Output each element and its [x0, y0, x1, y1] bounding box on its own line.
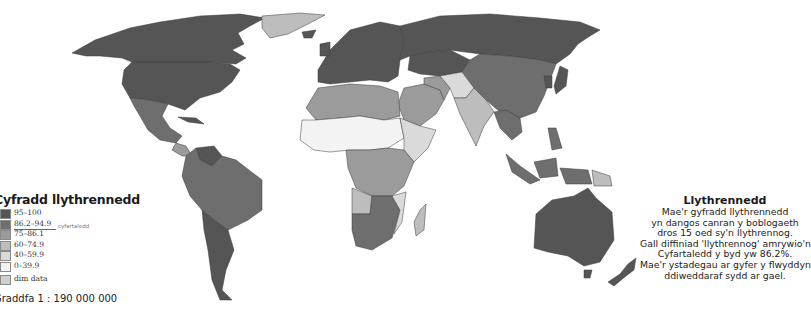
average-marker-label: cyfartaledd: [58, 223, 89, 229]
info-note: Llythrennedd Mae'r gyfradd llythrennedd …: [640, 195, 810, 281]
region-central-africa: [346, 148, 414, 196]
legend-label: 86.2–94.9: [14, 219, 51, 228]
legend-swatch: [0, 220, 11, 230]
region-sahel-west-africa: [300, 116, 404, 152]
legend-label: 60–74.9: [14, 240, 44, 249]
legend-label: 75–86.1: [14, 229, 44, 238]
legend-label: dim data: [14, 274, 47, 283]
legend-item: 0–39.9: [0, 262, 200, 273]
region-australia: [534, 188, 614, 266]
legend-items: 95–100 86.2–94.9 cyfartaledd 75–86.1 60–…: [0, 209, 200, 286]
legend-swatch: [0, 275, 11, 285]
legend-swatch: [0, 262, 11, 272]
legend-label: 0–39.9: [14, 261, 39, 270]
map-scale: Graddfa 1 : 190 000 000: [0, 293, 117, 304]
region-japan: [554, 66, 568, 94]
region-madagascar: [414, 204, 426, 236]
region-iceland-uk: [302, 30, 330, 56]
region-canada-alaska: [72, 14, 265, 64]
legend-swatch: [0, 251, 11, 261]
region-cuba: [178, 117, 204, 124]
legend-swatch: [0, 209, 11, 219]
region-tasmania: [584, 270, 592, 278]
region-greenland: [262, 13, 325, 38]
region-papua-new-guinea: [592, 170, 612, 186]
region-europe: [318, 22, 404, 84]
note-line: Mae'r gyfradd llythrennedd: [640, 207, 810, 218]
region-north-africa: [306, 84, 400, 120]
region-philippines: [548, 128, 562, 150]
legend-label: 40–59.9: [14, 250, 44, 259]
legend-item-no-data: dim data: [0, 275, 200, 286]
legend-label: 95–100: [14, 208, 42, 217]
region-indonesia: [506, 154, 592, 184]
legend-title: Cyfradd llythrennedd: [0, 192, 140, 207]
legend-swatch: [0, 241, 11, 251]
region-new-zealand: [608, 258, 636, 286]
note-line: Mae'r ystadegau ar gyfer y flwyddyn: [640, 260, 810, 271]
note-line: ddiweddaraf sydd ar gael.: [640, 271, 810, 282]
legend-swatch: [0, 230, 11, 240]
